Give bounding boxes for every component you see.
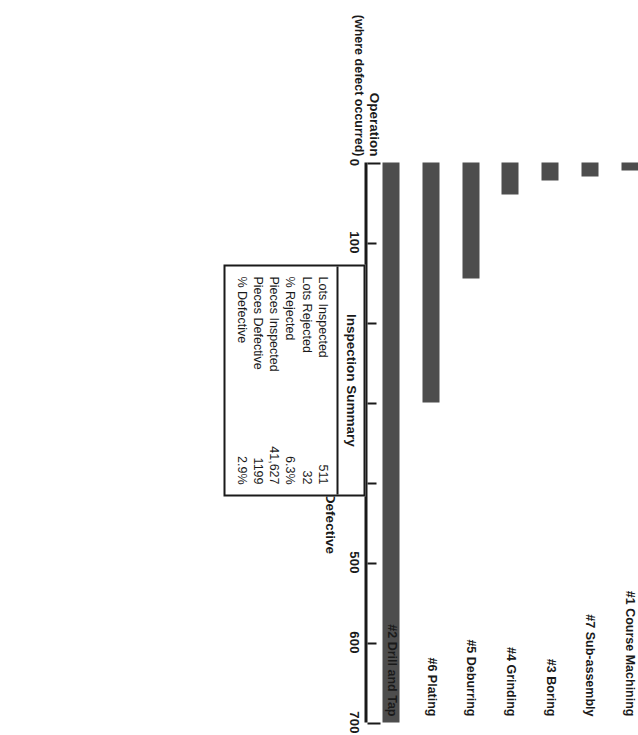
bar: [502, 162, 519, 194]
category-label: #3 Boring: [543, 658, 557, 716]
value-tick-0: [367, 162, 380, 164]
category-label: #2 Drill and Tap: [384, 624, 398, 716]
summary-row-value: 1199: [249, 457, 265, 484]
inspection-summary-title: Inspection Summary: [336, 266, 363, 494]
value-tick-label-600: 600: [346, 631, 361, 653]
value-tick-700: [367, 722, 380, 724]
category-axis-title-sub: (where defect occurred): [349, 0, 364, 156]
value-tick-400: [367, 482, 376, 484]
value-tick-label-0: 0: [346, 158, 361, 165]
bar: [621, 162, 638, 170]
value-tick-100: [367, 242, 376, 244]
summary-row-label: Lots Inspected: [314, 276, 330, 357]
summary-row-value: 511: [314, 464, 330, 484]
summary-row-value: 2.9%: [233, 456, 249, 485]
summary-row-label: % Rejected: [281, 276, 297, 340]
value-tick-500: [367, 562, 376, 564]
inspection-summary-rows: Lots Inspected511Lots Rejected32% Reject…: [226, 266, 337, 494]
summary-row-label: % Defective: [233, 276, 249, 343]
value-tick-label-500: 500: [346, 551, 361, 573]
summary-row: Lots Rejected32: [298, 276, 314, 484]
category-axis-title-main: Operation: [365, 0, 381, 156]
category-label: #5 Deburring: [463, 639, 477, 716]
summary-row: Pieces Inspected41,627: [265, 276, 281, 484]
category-label: #4 Grinding: [503, 647, 517, 716]
category-label: #7 Sub-assembly: [582, 614, 596, 716]
summary-row-label: Pieces Defective: [249, 276, 265, 369]
value-tick-300: [367, 402, 376, 404]
summary-row-value: 32: [298, 470, 314, 484]
category-label: #6 Plating: [424, 657, 438, 716]
summary-row-value: 41,627: [265, 446, 281, 484]
summary-row: % Rejected6.3%: [281, 276, 297, 484]
summary-row-label: Lots Rejected: [298, 276, 314, 352]
bar: [462, 162, 479, 278]
value-tick-label-700: 700: [346, 711, 361, 733]
inspection-summary-box: Inspection Summary Lots Inspected511Lots…: [224, 264, 366, 496]
bar: [422, 162, 439, 402]
bar: [581, 162, 598, 176]
summary-row-value: 6.3%: [281, 456, 297, 485]
summary-row-label: Pieces Inspected: [265, 276, 281, 371]
value-tick-600: [367, 642, 376, 644]
summary-row: Lots Inspected511: [314, 276, 330, 484]
summary-row: Pieces Defective1199: [249, 276, 265, 484]
category-axis-title: Operation (where defect occurred): [349, 0, 381, 156]
category-label: #1 Course Machining: [622, 590, 636, 716]
bar: [541, 162, 558, 180]
value-tick-200: [367, 322, 376, 324]
summary-row: % Defective2.9%: [233, 276, 249, 484]
value-tick-label-100: 100: [346, 231, 361, 253]
